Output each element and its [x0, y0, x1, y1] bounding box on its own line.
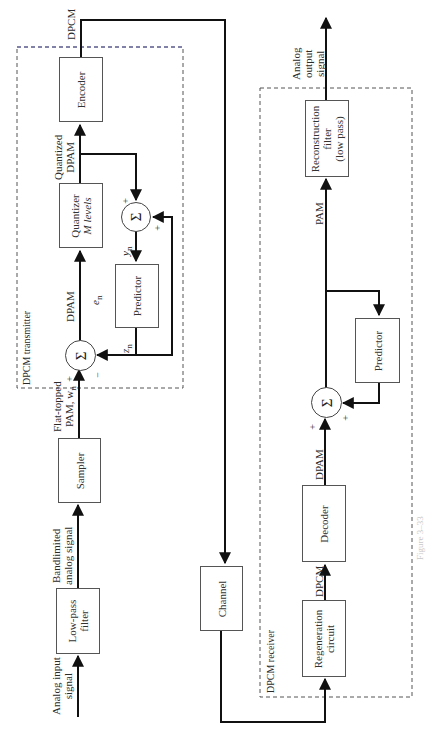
sampler-block[interactable]: Sampler: [58, 438, 101, 503]
rx-summer[interactable]: Σ: [311, 387, 342, 418]
tx-predictor-block[interactable]: Predictor: [115, 264, 159, 328]
bandlimited-signal-label: Bandlimitedanalog signal: [50, 527, 74, 585]
lowpass-filter-block[interactable]: Low-passfilter: [56, 588, 100, 654]
quantizer-block[interactable]: QuantizerM levels: [59, 183, 103, 248]
reconstruction-filter-label: Reconstructionfilter(low pass): [309, 105, 345, 172]
tx-summer-reconstruct[interactable]: Σ: [121, 202, 151, 232]
flat-topped-pam-label: Flat-toppedPAM, wn: [51, 381, 79, 432]
channel-label: Channel: [216, 580, 228, 617]
en-label: en: [89, 296, 105, 305]
encoder-label: Encoder: [75, 71, 87, 108]
rx-dpam-label: DPAM: [313, 449, 325, 480]
transmitter-title: DPCM transmitter: [21, 311, 33, 385]
lowpass-filter-label: Low-passfilter: [66, 600, 90, 643]
tx-predictor-label: Predictor: [131, 276, 143, 316]
regeneration-circuit-block[interactable]: Regenerationcircuit: [302, 600, 346, 677]
reconstruction-filter-block[interactable]: Reconstructionfilter(low pass): [305, 100, 349, 177]
analog-input-label: Analog inputsignal: [50, 657, 74, 715]
quantized-dpam-label: QuantizedDPAM: [52, 135, 76, 180]
receiver-title: DPCM receiver: [265, 630, 277, 693]
sign-minus: −: [93, 372, 103, 378]
sigma-icon: Σ: [73, 351, 88, 360]
sigma-icon: Σ: [129, 213, 144, 222]
sigma-icon: Σ: [319, 398, 334, 407]
rx-predictor-block[interactable]: Predictor: [355, 318, 400, 383]
decoder-label: Decoder: [318, 505, 330, 542]
yn-label: yn: [119, 247, 135, 256]
analog-output-label: Analogoutputsignal: [290, 48, 326, 80]
encoder-block[interactable]: Encoder: [59, 57, 103, 122]
rx-dpcm-label: DPCM: [313, 566, 325, 597]
decoder-block[interactable]: Decoder: [302, 485, 346, 562]
sign-plus: +: [308, 424, 318, 430]
sign-plus: +: [341, 415, 351, 421]
regeneration-label: Regenerationcircuit: [312, 609, 336, 668]
pam-label: PAM: [313, 202, 325, 225]
dpam-label: DPAM: [64, 291, 76, 322]
quantizer-label: QuantizerM levels: [69, 194, 93, 237]
sign-plus: +: [153, 225, 163, 231]
sign-plus: +: [121, 198, 131, 204]
channel-block[interactable]: Channel: [200, 566, 243, 631]
zn-label: zn: [119, 344, 135, 353]
rx-predictor-label: Predictor: [372, 330, 384, 370]
tx-summer-error[interactable]: Σ: [65, 340, 96, 371]
dpcm-out-label: DPCM: [65, 9, 77, 40]
sampler-label: Sampler: [74, 452, 86, 489]
figure-caption: Figure 3–33: [415, 516, 425, 560]
